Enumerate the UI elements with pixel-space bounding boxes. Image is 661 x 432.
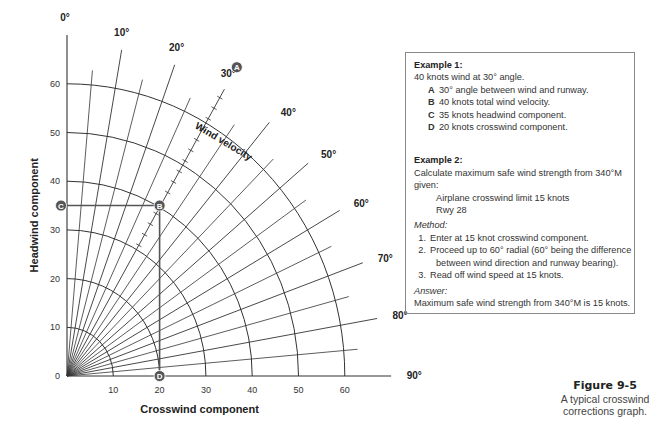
y-tick-30: 30	[50, 225, 60, 235]
y-tick-40: 40	[50, 176, 60, 186]
example1-item-c: C35 knots headwind component.	[414, 109, 634, 121]
marker-c-label: C	[58, 202, 64, 211]
x-tick-50: 50	[293, 385, 303, 395]
velocity-tick	[188, 149, 193, 152]
radial-20	[67, 65, 175, 376]
y-axis-label: Headwind component	[28, 158, 40, 273]
y-tick-10: 10	[50, 322, 60, 332]
velocity-tick	[206, 117, 211, 120]
example2-heading: Example 2:	[414, 154, 634, 166]
method-step-2: 2.Proceed up to 60° radial (60° being th…	[414, 244, 634, 256]
example1-item-d: D20 knots crosswind component.	[414, 121, 634, 133]
method-label: Method:	[414, 219, 634, 231]
radial-label-50: 50°	[321, 149, 336, 160]
velocity-tick	[177, 170, 182, 173]
radial-label-60: 60°	[354, 198, 369, 209]
velocity-tick	[136, 244, 141, 247]
radial-minor-75	[67, 297, 349, 376]
velocity-tick	[194, 138, 199, 141]
y-tick-50: 50	[50, 128, 60, 138]
x-tick-60: 60	[340, 385, 350, 395]
y-tick-60: 60	[50, 79, 60, 89]
example1-intro: 40 knots wind at 30° angle.	[414, 71, 634, 83]
velocity-tick	[171, 180, 176, 183]
radial-label-10: 10°	[114, 27, 129, 38]
x-axis-label: Crosswind component	[140, 403, 259, 415]
caption-line-2: corrections graph.	[545, 405, 661, 418]
answer-text: Maximum safe wind strength from 340°M is…	[414, 297, 634, 309]
example1-heading: Example 1:	[414, 59, 634, 71]
answer-label: Answer:	[414, 285, 634, 297]
x-tick-10: 10	[108, 385, 118, 395]
velocity-tick	[165, 191, 170, 194]
velocity-tick	[142, 233, 147, 236]
marker-d-label: D	[157, 372, 163, 381]
marker-a-label: A	[234, 63, 240, 72]
radial-70	[67, 263, 363, 376]
example1-item-a: A30° angle between wind and runway.	[414, 84, 634, 96]
x-tick-30: 30	[201, 385, 211, 395]
radial-minor-25	[67, 98, 190, 376]
velocity-tick	[154, 212, 159, 215]
radial-label-0: 0°	[60, 12, 70, 23]
y-tick-20: 20	[50, 274, 60, 284]
radial-label-20: 20°	[169, 42, 184, 53]
examples-box: Example 1: 40 knots wind at 30° angle. A…	[405, 52, 635, 314]
radial-label-40: 40°	[281, 107, 296, 118]
velocity-tick	[182, 159, 187, 162]
figure-number: Figure 9-5	[545, 380, 661, 393]
radial-minor-5	[67, 70, 92, 376]
radial-label-90: 90°	[407, 370, 422, 381]
method-step-1: 1.Enter at 15 knot crosswind component.	[414, 232, 634, 244]
radial-minor-15	[67, 80, 142, 376]
example2-given-2: Rwy 28	[414, 204, 634, 216]
velocity-tick	[217, 96, 222, 99]
example1-item-b: B40 knots total wind velocity.	[414, 96, 634, 108]
example2-given-1: Airplane crosswind limit 15 knots	[414, 192, 634, 204]
velocity-tick	[148, 223, 153, 226]
velocity-tick	[211, 107, 216, 110]
caption-line-1: A typical crosswind	[545, 393, 661, 406]
marker-b-label: B	[157, 202, 163, 211]
radial-label-70: 70°	[378, 253, 393, 264]
figure-caption: Figure 9-5 A typical crosswind correctio…	[545, 380, 661, 418]
method-step-3: 3.Read off wind speed at 15 knots.	[414, 269, 634, 281]
radial-minor-85	[67, 349, 358, 376]
wind-velocity-label: Wind velocity	[193, 120, 254, 163]
x-tick-40: 40	[247, 385, 257, 395]
method-step-2-cont: between wind direction and runway bearin…	[414, 257, 634, 269]
y-tick-0: 0	[55, 371, 60, 381]
x-tick-20: 20	[155, 385, 165, 395]
radial-minor-65	[67, 246, 331, 376]
example2-intro: Calculate maximum safe wind strength fro…	[414, 167, 634, 192]
